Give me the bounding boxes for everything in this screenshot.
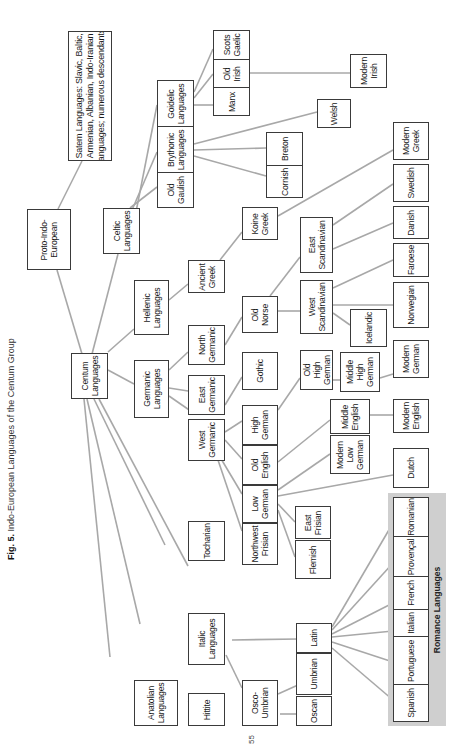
- node-celtic-languages: Celtic Languages: [103, 208, 140, 254]
- romance-group-label-area: Romance Languages: [428, 493, 446, 726]
- node-old-high-german: Old High German: [300, 350, 333, 390]
- node-tocharian: Tocharian: [188, 521, 225, 561]
- node-label: Portuguese: [406, 640, 416, 682]
- node-dutch: Dutch: [393, 448, 429, 488]
- node-label: Faroese: [406, 245, 416, 275]
- node-oscan: Oscan: [296, 696, 332, 726]
- node-label: Tocharian: [202, 523, 212, 558]
- node-middle-english: Middle English: [330, 399, 370, 434]
- node-label: Italic Languages: [197, 619, 217, 660]
- node-label: Breton: [280, 137, 290, 161]
- node-label: Old Norse: [250, 304, 270, 326]
- node-scots-gaelic: Scots Gaelic: [213, 30, 250, 60]
- node-middle-high-german: Middle High German: [340, 352, 380, 392]
- node-label: Danish: [406, 210, 416, 236]
- node-label: Oscan: [309, 699, 319, 723]
- node-label: East Scandinavian: [307, 220, 327, 269]
- node-french: French: [393, 576, 429, 610]
- node-label: Satem Languages: Slavic, Baltic, Armenia…: [74, 31, 107, 161]
- node-italic-languages: Italic Languages: [188, 613, 225, 665]
- node-label: Old Gaulish: [166, 176, 186, 204]
- node-label: Goidelic Languages: [166, 83, 186, 124]
- node-welsh: Welsh: [317, 99, 351, 128]
- node-label: Hellenic Languages: [142, 287, 162, 328]
- node-brythonic-languages: Brythonic Languages: [157, 126, 194, 173]
- node-label: Proto-Indo- European: [39, 219, 59, 260]
- node-gothic: Gothic: [242, 352, 278, 390]
- node-label: Romanian: [406, 498, 416, 536]
- node-label: West Scandinavian: [307, 282, 327, 331]
- node-east-scandinavian: East Scandinavian: [300, 217, 333, 273]
- figure-caption: Fig. 5. Indo-European Languages of the C…: [6, 338, 16, 560]
- node-west-germanic: West Germanic: [188, 419, 225, 461]
- node-label: Modern Low German: [335, 440, 365, 470]
- node-label: Northwest Frisian: [250, 526, 270, 563]
- node-label: Anatolian Languages: [146, 683, 166, 724]
- romance-group-label: Romance Languages: [432, 566, 442, 652]
- node-label: Koine Greek: [250, 212, 270, 234]
- node-modern-low-german: Modern Low German: [330, 435, 370, 474]
- node-label: Icelandic: [364, 312, 374, 344]
- node-old-english: Old English: [242, 445, 278, 485]
- diagram-canvas: Satem Languages: Slavic, Baltic, Armenia…: [0, 0, 466, 747]
- node-low-german: Low German: [242, 485, 278, 523]
- node-label: Dutch: [406, 457, 416, 478]
- node-swedish: Swedish: [393, 164, 429, 202]
- node-germanic-languages: Germanic Languages: [134, 360, 169, 418]
- node-label: High German: [250, 410, 270, 440]
- node-label: Old English: [250, 452, 270, 479]
- node-old-irish: Old Irish: [213, 59, 250, 88]
- node-label: Osco- Umbrian: [250, 687, 270, 718]
- node-label: Middle High German: [345, 357, 375, 387]
- node-east-germanic: East Germanic: [188, 375, 225, 415]
- node-label: Modern English: [401, 402, 421, 430]
- node-label: French: [406, 580, 416, 606]
- node-goidelic-languages: Goidelic Languages: [157, 80, 194, 127]
- node-label: Scots Gaelic: [222, 33, 242, 56]
- node-modern-irish: Modern Irish: [350, 54, 387, 88]
- node-norwegian: Norwegian: [393, 282, 429, 328]
- node-osco-umbrian: Osco- Umbrian: [242, 680, 278, 726]
- node-umbrian: Umbrian: [296, 653, 332, 695]
- node-label: Hittite: [202, 699, 212, 720]
- node-hittite: Hittite: [188, 693, 225, 726]
- node-breton: Breton: [266, 132, 303, 166]
- node-label: Modern German: [401, 344, 421, 374]
- node-label: Spanish: [406, 688, 416, 718]
- node-danish: Danish: [393, 206, 429, 239]
- figure-caption-text: Indo-European Languages of the Centum Gr…: [6, 338, 16, 531]
- node-ancient-greek: Ancient Greek: [188, 260, 225, 293]
- node-label: Middle English: [340, 403, 360, 430]
- node-flemish: Flemish: [295, 540, 331, 579]
- node-label: Welsh: [329, 102, 339, 125]
- node-portuguese: Portuguese: [393, 636, 429, 685]
- node-label: Low German: [250, 489, 270, 519]
- node-label: Gothic: [255, 359, 265, 383]
- node-label: Ancient Greek: [197, 263, 217, 290]
- node-high-german: High German: [242, 405, 278, 445]
- node-old-gaulish: Old Gaulish: [157, 172, 194, 208]
- node-east-frisian: East Frisian: [295, 506, 331, 539]
- node-spanish: Spanish: [393, 684, 429, 722]
- node-old-norse: Old Norse: [242, 296, 278, 333]
- node-label: Old High German: [302, 355, 332, 385]
- node-provencal: Provençal: [393, 536, 429, 577]
- node-label: Manx: [227, 91, 237, 111]
- node-west-scandinavian: West Scandinavian: [300, 280, 333, 334]
- node-label: Italian: [406, 612, 416, 634]
- node-label: East Germanic: [197, 377, 217, 413]
- node-label: Norwegian: [406, 285, 416, 324]
- node-proto-indo-european: Proto-Indo- European: [27, 209, 71, 270]
- node-label: Modern Irish: [359, 57, 379, 85]
- node-north-germanic: North Germanic: [188, 325, 225, 365]
- node-label: East Frisian: [303, 510, 323, 534]
- node-modern-german: Modern German: [393, 340, 429, 378]
- node-label: Flemish: [308, 545, 318, 574]
- node-label: Latin: [309, 629, 319, 647]
- node-label: Umbrian: [309, 658, 319, 689]
- node-label: Old Irish: [222, 66, 242, 81]
- figure-label: Fig. 5.: [6, 534, 16, 560]
- node-label: Swedish: [406, 167, 416, 198]
- node-label: Provençal: [406, 538, 416, 574]
- node-northwest-frisian: Northwest Frisian: [242, 523, 278, 565]
